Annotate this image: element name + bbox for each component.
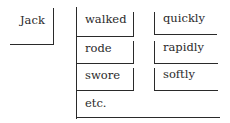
adverb-cell-bottom-border <box>154 63 218 64</box>
adverb-cell-left-border <box>154 41 155 63</box>
adverb-cell-left-border <box>154 12 155 35</box>
etc-bottom-border <box>76 117 220 118</box>
adverb-cell-bottom-border <box>154 34 217 35</box>
verb-cell-right-border <box>133 12 134 37</box>
verb-cell-bottom-border <box>76 36 134 37</box>
subject-right-border <box>53 8 54 45</box>
adverb-word: rapidly <box>163 40 204 54</box>
etc-word: etc. <box>85 96 107 110</box>
adverb-cell-bottom-border <box>154 90 218 91</box>
verb-word: rode <box>85 41 112 55</box>
verb-cell-right-border <box>133 41 134 64</box>
verb-word: walked <box>85 12 127 26</box>
verb-cell-right-border <box>133 68 134 91</box>
verb-word: swore <box>85 68 120 82</box>
subject-bottom-border <box>10 44 54 45</box>
verb-cell-bottom-border <box>76 63 134 64</box>
adverb-cell-left-border <box>154 68 155 91</box>
subject-word: Jack <box>20 13 45 27</box>
verb-cell-bottom-border <box>76 90 134 91</box>
adverb-word: quickly <box>163 11 205 25</box>
adverb-word: softly <box>163 67 195 81</box>
